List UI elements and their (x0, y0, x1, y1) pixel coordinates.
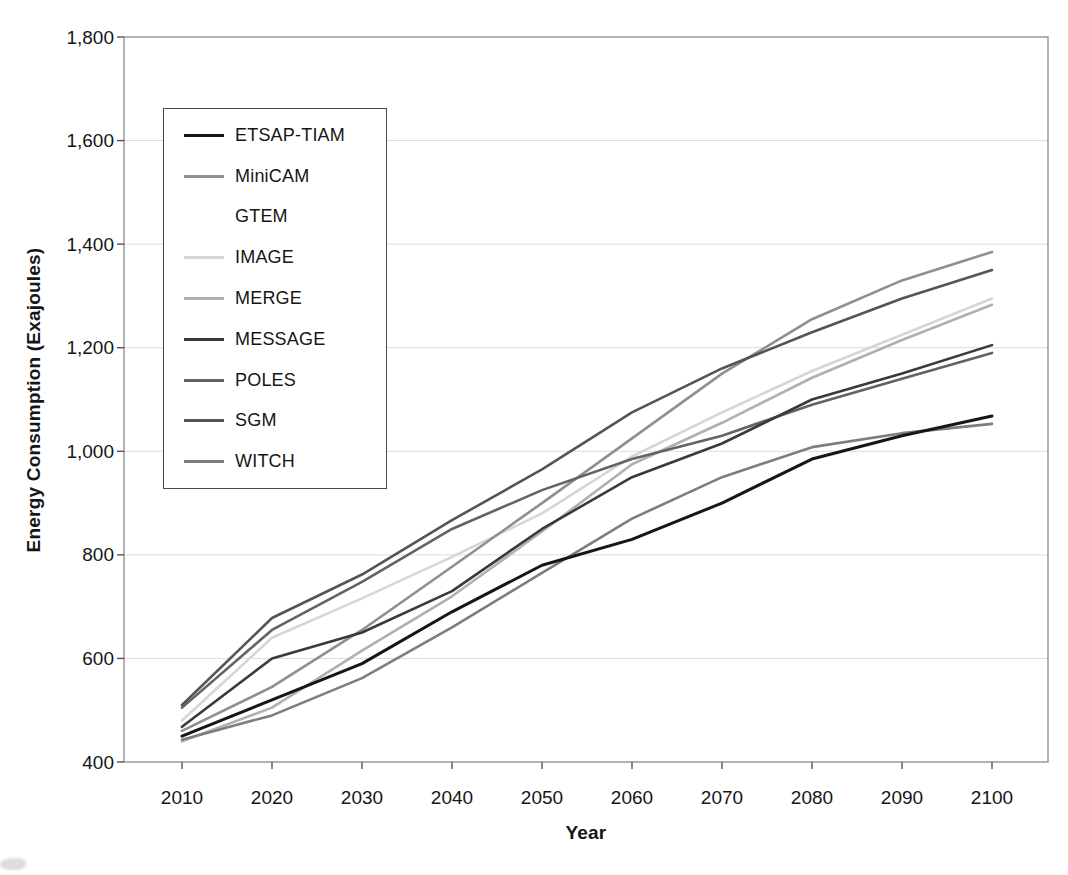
legend-label: MESSAGE (235, 329, 325, 350)
y-tick-label: 600 (82, 648, 114, 669)
y-tick-label: 1,400 (66, 234, 114, 255)
scanned-chart-page: Energy Consumption (Exajoules) 400600800… (0, 0, 1068, 875)
legend-swatch (184, 460, 224, 463)
y-tick-label: 1,600 (66, 130, 114, 151)
legend-label: ETSAP-TIAM (235, 125, 345, 146)
legend-swatch (184, 338, 224, 341)
x-tick-label: 2010 (161, 787, 203, 808)
legend-swatch (184, 256, 224, 259)
legend-label: WITCH (235, 451, 295, 472)
x-tick-label: 2100 (971, 787, 1013, 808)
legend-item-MESSAGE: MESSAGE (184, 319, 386, 360)
x-tick-label: 2070 (701, 787, 743, 808)
x-tick-label: 2040 (431, 787, 473, 808)
legend-swatch (184, 379, 224, 382)
y-tick-label: 800 (82, 544, 114, 565)
x-tick-label: 2090 (881, 787, 923, 808)
x-tick-label: 2020 (251, 787, 293, 808)
x-tick-label: 2080 (791, 787, 833, 808)
legend-swatch (184, 215, 224, 218)
scan-artifact (0, 858, 26, 870)
legend-item-GTEM: GTEM (184, 197, 386, 238)
legend-swatch (184, 297, 224, 300)
legend-swatch (184, 419, 224, 422)
x-tick-label: 2050 (521, 787, 563, 808)
legend-item-IMAGE: IMAGE (184, 237, 386, 278)
y-tick-label: 1,000 (66, 441, 114, 462)
legend-label: MiniCAM (235, 166, 309, 187)
legend-swatch (184, 134, 224, 137)
x-axis-title: Year (124, 822, 1048, 844)
x-tick-label: 2030 (341, 787, 383, 808)
legend-item-ETSAP-TIAM: ETSAP-TIAM (184, 115, 386, 156)
legend-label: IMAGE (235, 247, 294, 268)
y-tick-label: 1,800 (66, 27, 114, 48)
legend-label: GTEM (235, 206, 288, 227)
legend: ETSAP-TIAMMiniCAMGTEMIMAGEMERGEMESSAGEPO… (163, 108, 387, 489)
legend-label: MERGE (235, 288, 302, 309)
legend-item-MERGE: MERGE (184, 278, 386, 319)
legend-swatch (184, 175, 224, 178)
legend-item-POLES: POLES (184, 360, 386, 401)
legend-item-WITCH: WITCH (184, 441, 386, 482)
legend-item-MiniCAM: MiniCAM (184, 156, 386, 197)
legend-label: SGM (235, 410, 277, 431)
legend-label: POLES (235, 370, 296, 391)
legend-item-SGM: SGM (184, 400, 386, 441)
y-tick-label: 400 (82, 752, 114, 773)
energy-consumption-line-chart: 4006008001,0001,2001,4001,6001,800201020… (0, 0, 1068, 875)
y-tick-label: 1,200 (66, 337, 114, 358)
x-tick-label: 2060 (611, 787, 653, 808)
